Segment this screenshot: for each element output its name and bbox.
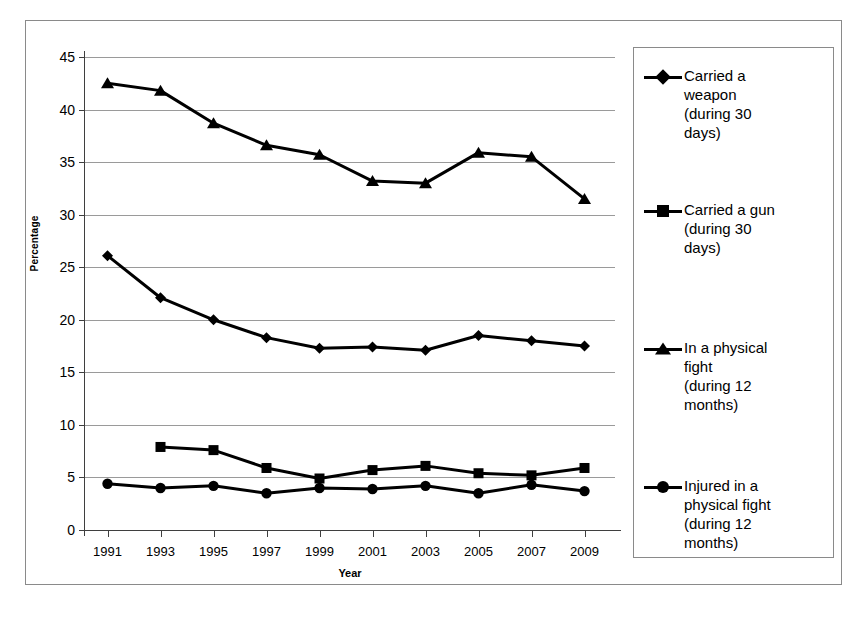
y-tick-label: 25: [29, 260, 75, 274]
legend-item[interactable]: Carried a gun(during 30days): [642, 200, 827, 257]
legend-marker-triangle-icon: [642, 340, 684, 358]
data-point-diamond: [367, 342, 378, 353]
data-point-diamond: [420, 345, 431, 356]
x-axis-line: [84, 530, 621, 531]
data-point-square: [421, 461, 431, 471]
data-point-diamond: [579, 341, 590, 352]
x-tick-label: 1991: [93, 544, 122, 559]
x-axis-title: Year: [85, 567, 615, 579]
legend-item[interactable]: Carried aweapon(during 30days): [642, 66, 827, 142]
data-point-circle: [420, 481, 430, 491]
legend-marker-square-icon: [642, 202, 684, 220]
series-line: [108, 256, 585, 351]
series-layer: [85, 57, 615, 530]
y-tick-label: 0: [29, 523, 75, 537]
data-point-diamond: [208, 314, 219, 325]
legend-label-line: (during 30: [684, 219, 775, 238]
legend-label-line: In a physical: [684, 338, 767, 357]
diamond-icon: [655, 69, 671, 85]
legend-label-line: months): [684, 395, 767, 414]
series-4: [102, 479, 589, 499]
data-point-diamond: [473, 330, 484, 341]
x-tick-label: 1999: [305, 544, 334, 559]
legend-label-line: Injured in a: [684, 476, 771, 495]
legend-label-line: Carried a gun: [684, 200, 775, 219]
y-tick-label: 30: [29, 208, 75, 222]
data-point-circle: [155, 483, 165, 493]
legend: Carried aweapon(during 30days)Carried a …: [633, 47, 834, 558]
x-tick-label: 2009: [570, 544, 599, 559]
y-tick-label: 45: [29, 50, 75, 64]
x-tick-label: 2001: [358, 544, 387, 559]
series-line: [108, 83, 585, 199]
x-tick-mark: [214, 530, 215, 537]
y-tick-label: 10: [29, 418, 75, 432]
circle-icon: [657, 481, 669, 493]
chart-screenshot: Percentage 051015202530354045 1991199319…: [0, 0, 864, 624]
y-tick-label: 5: [29, 470, 75, 484]
legend-label: Injured in aphysical fight(during 12mont…: [684, 476, 771, 552]
x-tick-mark: [373, 530, 374, 537]
legend-label-line: days): [684, 123, 752, 142]
legend-item[interactable]: In a physicalfight(during 12months): [642, 338, 827, 414]
data-point-square: [262, 463, 272, 473]
x-tick-mark: [161, 530, 162, 537]
plot-area: 051015202530354045 199119931995199719992…: [85, 57, 615, 530]
legend-label-line: physical fight: [684, 495, 771, 514]
legend-label-line: (during 30: [684, 104, 752, 123]
x-tick-label: 2003: [411, 544, 440, 559]
y-axis-title: Percentage: [29, 184, 40, 304]
x-tick-mark: [320, 530, 321, 537]
data-point-circle: [314, 483, 324, 493]
legend-marker-diamond-icon: [642, 68, 684, 86]
data-point-circle: [473, 488, 483, 498]
data-point-diamond: [526, 335, 537, 346]
data-point-circle: [208, 481, 218, 491]
data-point-square: [474, 468, 484, 478]
y-tick-label: 40: [29, 103, 75, 117]
series-2: [156, 442, 590, 484]
x-tick-mark: [267, 530, 268, 537]
data-point-diamond: [314, 343, 325, 354]
x-tick-label: 2005: [464, 544, 493, 559]
y-tick-mark: [79, 530, 85, 531]
y-tick-label: 35: [29, 155, 75, 169]
data-point-diamond: [261, 332, 272, 343]
data-point-square: [580, 463, 590, 473]
legend-marker-circle-icon: [642, 478, 684, 496]
legend-label-line: weapon: [684, 85, 752, 104]
legend-label-line: Carried a: [684, 66, 752, 85]
data-point-square: [368, 465, 378, 475]
data-point-square: [315, 473, 325, 483]
x-tick-label: 2007: [517, 544, 546, 559]
data-point-circle: [261, 488, 271, 498]
legend-label: Carried aweapon(during 30days): [684, 66, 752, 142]
series-1: [102, 250, 590, 356]
legend-label-line: fight: [684, 357, 767, 376]
data-point-circle: [579, 486, 589, 496]
data-point-square: [209, 445, 219, 455]
legend-label-line: (during 12: [684, 376, 767, 395]
x-tick-mark: [426, 530, 427, 537]
legend-item[interactable]: Injured in aphysical fight(during 12mont…: [642, 476, 827, 552]
x-tick-mark: [479, 530, 480, 537]
x-tick-mark: [585, 530, 586, 537]
y-tick-label: 20: [29, 313, 75, 327]
data-point-circle: [102, 479, 112, 489]
legend-label-line: days): [684, 238, 775, 257]
square-icon: [657, 205, 669, 217]
data-point-circle: [367, 484, 377, 494]
legend-label-line: months): [684, 533, 771, 552]
x-tick-label: 1997: [252, 544, 281, 559]
x-tick-label: 1993: [146, 544, 175, 559]
legend-label: Carried a gun(during 30days): [684, 200, 775, 257]
series-line: [108, 484, 585, 493]
data-point-square: [527, 470, 537, 480]
legend-label-line: (during 12: [684, 514, 771, 533]
line-chart: Percentage 051015202530354045 1991199319…: [0, 0, 864, 624]
series-3: [101, 77, 591, 204]
data-point-circle: [526, 480, 536, 490]
x-tick-mark: [532, 530, 533, 537]
y-tick-label: 15: [29, 365, 75, 379]
legend-label: In a physicalfight(during 12months): [684, 338, 767, 414]
